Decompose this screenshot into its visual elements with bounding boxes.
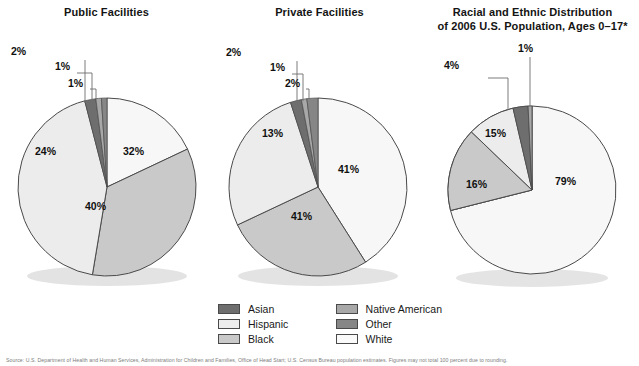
legend-item-black[interactable]: Black [218, 332, 318, 347]
legend-item-asian[interactable]: Asian [218, 301, 318, 316]
slice-label-hispanic-2: 15% [485, 127, 506, 139]
slice-label-black-0: 40% [85, 200, 106, 212]
slice-label-black-2: 16% [466, 178, 487, 190]
leader-line-other-0 [90, 89, 96, 99]
pie-chart-public-facilities: Public Facilities [0, 0, 213, 300]
pie-slices-1 [229, 98, 407, 276]
slice-label-white-0: 32% [123, 145, 144, 157]
leader-line-other-1 [306, 89, 309, 99]
legend-swatch-white [336, 334, 358, 344]
legend-item-hispanic[interactable]: Hispanic [218, 316, 318, 331]
legend-item-native-american[interactable]: Native American [336, 301, 442, 316]
legend-swatch-hispanic [218, 319, 240, 329]
legend-label-white: White [366, 333, 393, 345]
pie-graphic-0: 32% 40% 24% 2% 1% 1% [0, 0, 213, 300]
slice-label-white-2: 79% [555, 175, 576, 187]
legend-swatch-native-american [336, 304, 358, 314]
callout-label-native-american-0: 1% [55, 60, 70, 72]
legend-label-asian: Asian [248, 303, 274, 315]
legend-item-white[interactable]: White [336, 332, 442, 347]
callout-label-native-american-1: 1% [270, 61, 285, 73]
legend-item-other[interactable]: Other [336, 316, 442, 331]
figure-footnote: Source: U.S. Department of Health and Hu… [6, 357, 634, 364]
pie-svg-0 [0, 0, 213, 300]
slice-label-hispanic-0: 24% [35, 145, 56, 157]
leader-line-asian-2 [488, 78, 508, 110]
pie-graphic-1: 41% 41% 13% 2% 1% 2% [213, 0, 426, 300]
callout-label-other-1: 2% [285, 77, 300, 89]
callout-label-native-american-2: 1% [518, 42, 533, 54]
callout-label-other-0: 1% [68, 77, 83, 89]
callout-label-asian-2: 4% [444, 59, 459, 71]
figure-root: Public Facilities [0, 0, 639, 366]
legend-label-black: Black [248, 333, 274, 345]
pie-leader-lines-2 [488, 57, 530, 110]
legend-swatch-other [336, 319, 358, 329]
pie-slices-0 [18, 98, 196, 276]
callout-label-asian-0: 2% [11, 45, 26, 57]
pie-chart-us-population: Racial and Ethnic Distribution of 2006 U… [426, 0, 639, 300]
pie-graphic-2: 79% 16% 15% 4% 1% [426, 0, 639, 300]
pie-svg-1 [213, 0, 426, 300]
legend-label-hispanic: Hispanic [248, 318, 288, 330]
slice-label-black-1: 41% [291, 210, 312, 222]
legend-swatch-black [218, 334, 240, 344]
legend-swatch-asian [218, 304, 240, 314]
legend-label-other: Other [366, 318, 392, 330]
legend-label-native-american: Native American [366, 303, 442, 315]
pie-chart-private-facilities: Private Facilities [213, 0, 426, 300]
chart-legend: Asian Native American Hispanic Other Bla… [218, 301, 442, 347]
slice-label-white-1: 41% [338, 163, 359, 175]
slice-label-hispanic-1: 13% [262, 127, 283, 139]
callout-label-asian-1: 2% [226, 46, 241, 58]
